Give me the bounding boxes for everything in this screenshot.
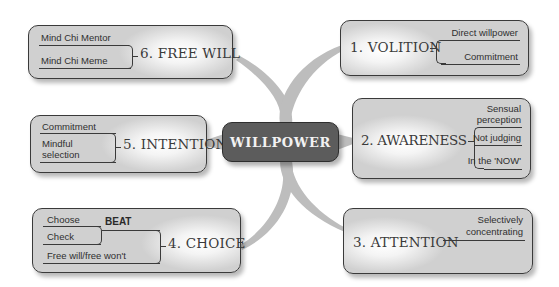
arm-awareness <box>337 134 353 150</box>
underline <box>474 145 522 146</box>
node-attention[interactable]: 3. ATTENTION Selectively concentrating <box>343 208 533 274</box>
leaf-mind-chi-meme: Mind Chi Meme <box>41 55 108 66</box>
leaf-check: Check <box>47 231 74 242</box>
leaf-concentrating: concentrating <box>466 226 523 237</box>
node-choice[interactable]: Choose Check BEAT Free will/free won't 4… <box>32 208 241 273</box>
leaf-direct-willpower: Direct willpower <box>451 27 518 38</box>
leaf-mind-chi-mentor: Mind Chi Mentor <box>41 32 111 43</box>
underline <box>443 240 525 241</box>
underline <box>39 68 131 69</box>
node-title: 3. ATTENTION <box>353 234 459 250</box>
bracket <box>105 133 116 163</box>
node-title: 2. AWARENESS <box>361 132 467 148</box>
leaf-mindful: Mindful <box>42 138 73 149</box>
underline <box>484 127 522 128</box>
leaf-choose: Choose <box>47 214 80 225</box>
underline <box>39 45 129 46</box>
underline <box>43 263 160 264</box>
node-intention[interactable]: Commitment Mindful selection 5. INTENTIO… <box>30 115 207 173</box>
node-volition[interactable]: 1. VOLITION Direct willpower Commitment <box>340 20 529 76</box>
bracket <box>436 40 446 64</box>
leaf-selection: selection <box>42 149 80 160</box>
connector <box>161 246 166 247</box>
connector <box>133 56 138 57</box>
bracket-outer <box>151 230 161 264</box>
leaf-not-judging: Not judging <box>473 132 521 143</box>
leaf-in-the-now: In the 'NOW' <box>468 155 521 166</box>
connector <box>116 147 121 148</box>
central-node-willpower[interactable]: WILLPOWER <box>222 122 339 162</box>
central-label: WILLPOWER <box>230 135 331 150</box>
arm-volition <box>280 45 344 124</box>
underline <box>446 40 520 41</box>
leaf-commitment: Commitment <box>42 121 96 132</box>
underline <box>441 64 520 65</box>
node-awareness[interactable]: 2. AWARENESS Sensual perception Not judg… <box>352 98 531 179</box>
bracket <box>121 45 133 69</box>
underline <box>484 169 522 170</box>
bracket-inner <box>92 226 102 245</box>
arm-attention <box>280 161 346 232</box>
node-title: 5. INTENTION <box>123 136 228 152</box>
leaf-selectively: Selectively <box>478 214 523 225</box>
group-label-beat: BEAT <box>105 216 131 227</box>
leaf-sensual: Sensual <box>487 103 521 114</box>
node-title: 4. CHOICE <box>168 235 246 251</box>
leaf-free-will-free-wont: Free will/free won't <box>47 250 126 261</box>
node-title: 1. VOLITION <box>350 39 441 55</box>
node-free-will[interactable]: Mind Chi Mentor Mind Chi Meme 6. FREE WI… <box>28 25 233 79</box>
leaf-perception: perception <box>477 114 521 125</box>
leaf-commitment: Commitment <box>464 51 518 62</box>
node-title: 6. FREE WILL <box>140 45 240 61</box>
